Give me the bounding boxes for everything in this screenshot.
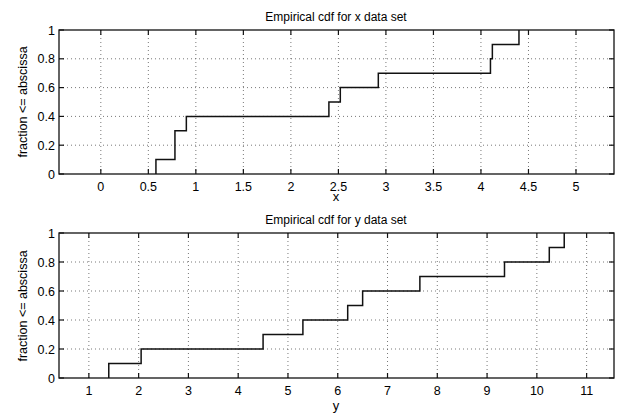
grid-lines — [59, 233, 614, 378]
y-cdf-panel: Empirical cdf for y data set 12345678910… — [16, 213, 614, 413]
y-tick-label: 0.2 — [38, 139, 55, 153]
x-axis-label: x — [333, 189, 340, 204]
x-tick-label: 4 — [477, 180, 484, 194]
cdf-path — [109, 233, 564, 378]
x-axis-ticks: 1234567891011 — [85, 233, 593, 398]
y-tick-label: 0.6 — [38, 285, 55, 299]
x-tick-label: 1 — [85, 384, 92, 398]
x-tick-label: 4.5 — [520, 180, 537, 194]
x-tick-label: 0 — [97, 180, 104, 194]
chart-title: Empirical cdf for x data set — [265, 10, 407, 24]
y-tick-label: 1 — [48, 227, 55, 241]
y-tick-label: 1 — [48, 24, 55, 38]
x-tick-label: 10 — [530, 384, 544, 398]
x-tick-label: 9 — [484, 384, 491, 398]
y-axis-ticks: 00.20.40.60.81 — [38, 227, 614, 386]
y-axis-label: fraction <= abscissa — [16, 46, 30, 157]
y-tick-label: 0.8 — [38, 52, 55, 66]
x-tick-label: 8 — [434, 384, 441, 398]
y-tick-label: 0 — [48, 372, 55, 386]
x-axis-label: y — [333, 398, 340, 413]
x-tick-label: 4 — [235, 384, 242, 398]
x-tick-label: 6 — [334, 384, 341, 398]
x-tick-label: 2 — [287, 180, 294, 194]
x-tick-label: 5 — [284, 384, 291, 398]
x-tick-label: 1 — [192, 180, 199, 194]
x-tick-label: 7 — [384, 384, 391, 398]
y-tick-label: 0.4 — [38, 314, 55, 328]
x-tick-label: 3 — [382, 180, 389, 194]
cdf-step-line — [156, 30, 519, 174]
y-tick-label: 0.6 — [38, 81, 55, 95]
x-tick-label: 1.5 — [235, 180, 252, 194]
y-axis-label: fraction <= abscissa — [16, 250, 30, 361]
x-cdf-panel: Empirical cdf for x data set 00.511.522.… — [16, 10, 614, 204]
x-tick-label: 3.5 — [425, 180, 442, 194]
chart-title: Empirical cdf for y data set — [265, 213, 407, 227]
y-tick-label: 0.2 — [38, 343, 55, 357]
empirical-cdf-figure: Empirical cdf for x data set 00.511.522.… — [0, 0, 634, 419]
cdf-path — [156, 30, 519, 174]
x-tick-label: 0.5 — [140, 180, 157, 194]
axes-frame — [59, 233, 614, 378]
x-tick-label: 11 — [580, 384, 593, 398]
y-tick-label: 0 — [48, 168, 55, 182]
x-tick-label: 5 — [573, 180, 580, 194]
y-tick-label: 0.4 — [38, 110, 55, 124]
cdf-step-line — [109, 233, 564, 378]
x-tick-label: 3 — [185, 384, 192, 398]
y-tick-label: 0.8 — [38, 256, 55, 270]
x-tick-label: 2 — [135, 384, 142, 398]
y-axis-ticks: 00.20.40.60.81 — [38, 24, 614, 182]
